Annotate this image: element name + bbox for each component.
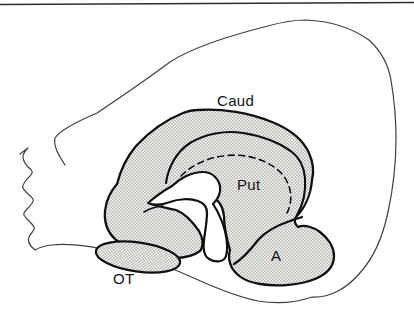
top-rule [0, 3, 414, 5]
putamen-label: Put [237, 176, 261, 193]
figure-canvas: Caud Put A OT [0, 0, 414, 313]
caudate-label: Caud [217, 92, 254, 109]
amygdala-label: A [271, 247, 281, 264]
brain-diagram: Caud Put A OT [0, 0, 414, 313]
olfactory-tubercle-label: OT [113, 270, 134, 287]
